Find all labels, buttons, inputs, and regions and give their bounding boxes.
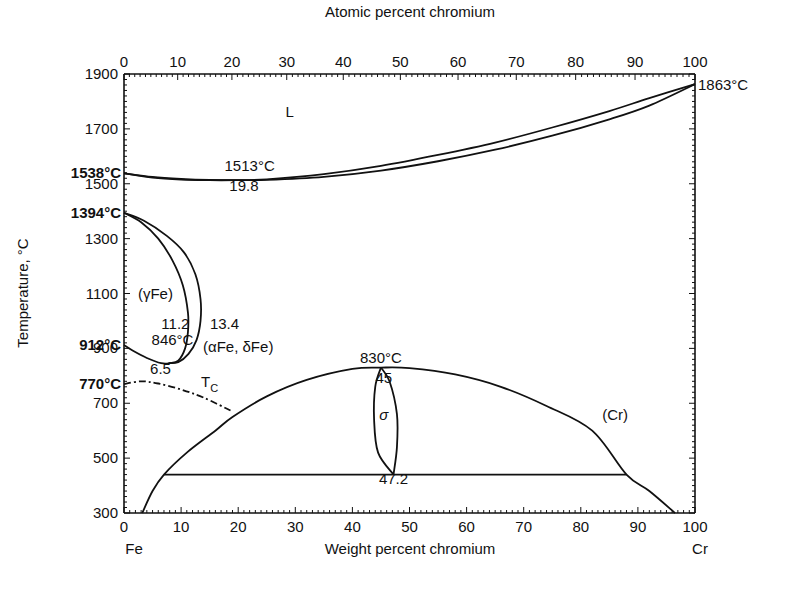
x2-tick-label: 50 <box>392 53 409 70</box>
phase-diagram-chart: 0102030405060708090100010203040506070809… <box>0 0 798 595</box>
x2-tick-label: 80 <box>567 53 584 70</box>
x-tick-label: 0 <box>120 518 128 535</box>
x-tick-label: 30 <box>287 518 304 535</box>
phase-boundary-curves <box>124 84 695 513</box>
sigma-solvus-curve <box>142 367 675 513</box>
y-tick-label: 700 <box>93 394 118 411</box>
annotation-label: 45 <box>375 369 392 386</box>
annotation-label: 47.2 <box>379 470 408 487</box>
special-temp-label: 912°C <box>79 336 121 353</box>
phase-label: σ <box>379 406 389 423</box>
phase-label: (Cr) <box>602 406 628 423</box>
x2-tick-label: 60 <box>450 53 467 70</box>
x2-tick-label: 40 <box>335 53 352 70</box>
annotation-label: 846°C <box>152 331 194 348</box>
axes <box>124 74 695 513</box>
x-tick-label: 80 <box>572 518 589 535</box>
x2-tick-label: 0 <box>120 53 128 70</box>
y-tick-label: 1700 <box>85 120 118 137</box>
solidus-curve <box>124 84 695 180</box>
x2-tick-label: 70 <box>508 53 525 70</box>
fe-label: Fe <box>125 540 143 557</box>
x-tick-label: 70 <box>515 518 532 535</box>
x2-tick-label: 30 <box>278 53 295 70</box>
y-tick-label: 1100 <box>86 285 118 302</box>
annotation-label: 19.8 <box>229 177 258 194</box>
y-axis-title: Temperature, °C <box>14 238 31 348</box>
x-tick-label: 40 <box>344 518 361 535</box>
x2-axis-title: Atomic percent chromium <box>325 3 495 20</box>
special-temp-label: 1394°C <box>71 204 121 221</box>
y-tick-label: 1300 <box>85 230 118 247</box>
y-tick-label: 300 <box>93 504 118 521</box>
annotation-label: 11.2 <box>161 315 189 332</box>
special-temp-label: 1538°C <box>71 164 121 181</box>
x2-tick-label: 10 <box>169 53 186 70</box>
x2-tick-label: 90 <box>627 53 644 70</box>
annotation-label: 1513°C <box>225 157 275 174</box>
special-temp-label: 770°C <box>79 375 121 392</box>
x-axis-title: Weight percent chromium <box>325 540 496 557</box>
annotation-label: 6.5 <box>150 360 171 377</box>
x-tick-label: 50 <box>401 518 418 535</box>
x-tick-label: 100 <box>682 518 707 535</box>
annotation-label: 830°C <box>360 349 402 366</box>
phase-label: L <box>285 103 293 120</box>
x-tick-label: 10 <box>173 518 190 535</box>
y-tick-label: 1900 <box>85 65 118 82</box>
x-tick-label: 90 <box>630 518 647 535</box>
x-tick-label: 60 <box>458 518 475 535</box>
x-tick-label: 20 <box>230 518 247 535</box>
phase-label: (αFe, δFe) <box>203 338 273 355</box>
cr-label: Cr <box>692 540 708 557</box>
phase-label: (γFe) <box>138 285 173 302</box>
y-tick-label: 500 <box>93 449 118 466</box>
special-temp-label: 1863°C <box>698 76 748 93</box>
annotation-label: 13.4 <box>210 315 239 332</box>
phase-label: TC <box>201 373 218 394</box>
x2-tick-label: 20 <box>224 53 241 70</box>
x2-tick-label: 100 <box>682 53 707 70</box>
